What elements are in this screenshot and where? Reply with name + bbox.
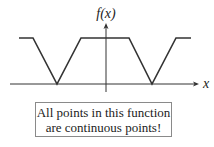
function-curve (19, 38, 191, 84)
note-line-2: are continuous points! (36, 120, 171, 135)
note-box: All points in this function are continuo… (35, 102, 172, 137)
y-axis-label: f(x) (96, 6, 116, 22)
note-line-1: All points in this function (36, 105, 171, 120)
x-axis-label: x (202, 76, 210, 91)
diagram-canvas: f(x) x All points in this function are c… (0, 0, 214, 147)
